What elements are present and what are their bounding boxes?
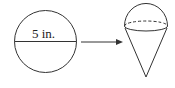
diagram-canvas xyxy=(0,0,175,88)
cone-left-side xyxy=(125,28,146,77)
hemisphere-front-edge xyxy=(125,26,168,31)
diameter-label: 5 in. xyxy=(32,27,55,40)
hemisphere-back-edge xyxy=(125,21,168,26)
arrow-head-icon xyxy=(116,39,123,45)
cone-right-side xyxy=(146,28,167,77)
